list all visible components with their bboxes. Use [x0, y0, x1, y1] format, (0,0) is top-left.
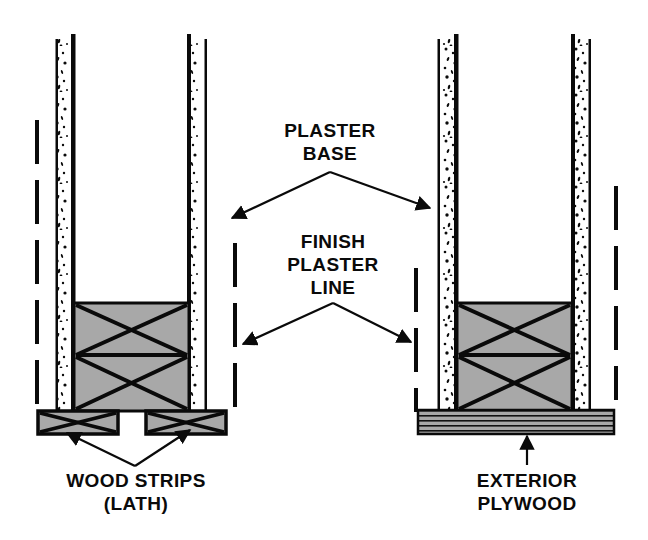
construction-detail-drawing: PLASTER BASE FINISH PLASTER LINE WOOD ST…: [0, 0, 648, 540]
finish-plaster-line-label-line2: PLASTER: [287, 254, 378, 275]
wood-strips-label-line2: (LATH): [104, 493, 168, 514]
plaster-base-label-line1: PLASTER: [284, 120, 375, 141]
right-outer-wall-panel: [571, 34, 591, 414]
right-wood-strip: [146, 411, 226, 434]
left-blocking-block: [74, 303, 189, 411]
exterior-plywood-label-line1: EXTERIOR: [477, 470, 577, 491]
right-opening-left-wall-panel: [438, 34, 459, 414]
exterior-plywood-label-line2: PLYWOOD: [477, 493, 576, 514]
left-wood-strip: [38, 411, 118, 434]
plywood-sheet: [418, 410, 614, 434]
right-blocking-block: [457, 303, 572, 411]
finish-plaster-line-label-line3: LINE: [311, 277, 356, 298]
diagram-canvas: PLASTER BASE FINISH PLASTER LINE WOOD ST…: [0, 0, 648, 540]
finish-plaster-line-label-line1: FINISH: [301, 231, 366, 252]
plaster-base-label-line2: BASE: [303, 143, 357, 164]
wood-strips-label-line1: WOOD STRIPS: [66, 470, 206, 491]
